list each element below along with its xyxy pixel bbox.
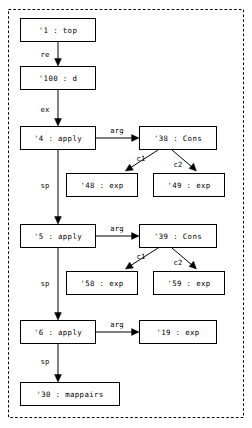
diagram-canvas: re ex arg c1 c2 sp xyxy=(0,0,252,428)
node-exp-58[interactable]: '58 : exp xyxy=(67,272,138,295)
arrowhead-icon xyxy=(125,262,133,269)
edge-sp-2: sp xyxy=(40,248,61,320)
node-exp-59[interactable]: '59 : exp xyxy=(154,272,225,295)
arrowhead-icon xyxy=(189,163,196,171)
edge-c2-2: c2 xyxy=(172,248,196,269)
node-cons-38[interactable]: '38 : Cons xyxy=(140,127,217,150)
node-label-apply-4: '4 : apply xyxy=(34,134,82,143)
node-apply-4[interactable]: '4 : apply xyxy=(21,127,96,150)
edge-re: re xyxy=(40,42,61,66)
edge-label-arg-1: arg xyxy=(110,126,124,135)
node-apply-5[interactable]: '5 : apply xyxy=(21,225,96,248)
graph-diagram: re ex arg c1 c2 sp xyxy=(0,0,252,428)
arrowhead-icon xyxy=(55,217,62,224)
node-top[interactable]: '1 : top xyxy=(21,19,96,42)
edge-sp-3: sp xyxy=(40,344,61,382)
edge-label-c1-2: c1 xyxy=(136,252,145,261)
node-label-apply-5: '5 : apply xyxy=(34,232,82,241)
edge-c1-2: c1 xyxy=(125,248,158,269)
edge-label-sp-3: sp xyxy=(40,357,49,366)
edge-label-sp-1: sp xyxy=(40,181,49,190)
edge-label-sp-2: sp xyxy=(40,279,49,288)
node-mappairs-30[interactable]: '30 : mappairs xyxy=(21,383,120,406)
arrowhead-icon xyxy=(55,313,62,320)
arrowhead-icon xyxy=(55,119,62,126)
arrowhead-icon xyxy=(132,135,139,142)
node-apply-6[interactable]: '6 : apply xyxy=(21,321,96,344)
edge-arg-2: arg xyxy=(96,224,139,239)
edge-c1-1: c1 xyxy=(125,150,158,171)
edge-arg-1: arg xyxy=(96,126,139,141)
node-label-top: '1 : top xyxy=(39,26,77,35)
edge-label-arg-2: arg xyxy=(110,224,124,233)
edge-sp-1: sp xyxy=(40,150,61,224)
node-label-d: '100 : d xyxy=(39,74,77,83)
node-label-exp-49: '49 : exp xyxy=(167,181,210,190)
node-label-cons-39: '39 : Cons xyxy=(154,232,202,241)
node-label-exp-48: '48 : exp xyxy=(80,181,123,190)
edge-c2-1: c2 xyxy=(172,150,196,171)
arrowhead-icon xyxy=(189,261,196,269)
node-exp-49[interactable]: '49 : exp xyxy=(154,174,225,197)
node-d[interactable]: '100 : d xyxy=(21,67,96,90)
node-cons-39[interactable]: '39 : Cons xyxy=(140,225,217,248)
node-label-exp-59: '59 : exp xyxy=(167,279,210,288)
edge-ex: ex xyxy=(40,90,61,126)
edge-label-ex: ex xyxy=(40,105,50,114)
arrowhead-icon xyxy=(55,59,62,66)
node-label-mappairs-30: '30 : mappairs xyxy=(36,390,103,399)
edge-label-c1-1: c1 xyxy=(136,154,145,163)
node-label-exp-19: '19 : exp xyxy=(156,328,199,337)
node-exp-19[interactable]: '19 : exp xyxy=(140,321,217,344)
arrowhead-icon xyxy=(132,233,139,240)
arrowhead-icon xyxy=(132,329,139,336)
node-exp-48[interactable]: '48 : exp xyxy=(67,174,138,197)
edge-label-arg-3: arg xyxy=(110,320,124,329)
edge-label-c2-2: c2 xyxy=(173,258,182,267)
edge-label-c2-1: c2 xyxy=(173,160,182,169)
node-label-apply-6: '6 : apply xyxy=(34,328,82,337)
edge-label-re: re xyxy=(40,50,49,59)
node-label-cons-38: '38 : Cons xyxy=(154,134,202,143)
node-label-exp-58: '58 : exp xyxy=(80,279,123,288)
arrowhead-icon xyxy=(125,164,133,171)
edge-arg-3: arg xyxy=(96,320,139,335)
arrowhead-icon xyxy=(55,375,62,382)
